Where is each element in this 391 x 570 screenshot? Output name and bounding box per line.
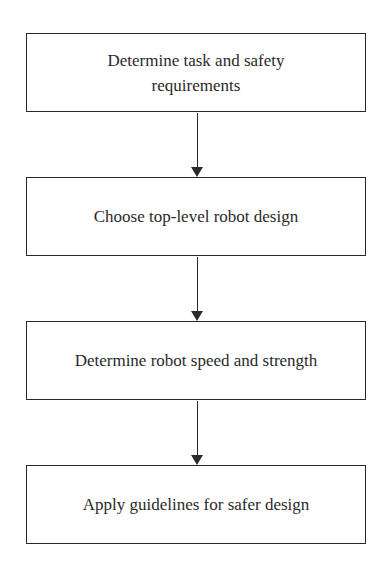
- step-speed-strength: Determine robot speed and strength: [26, 321, 366, 400]
- step-label: Determine task and safety requirements: [107, 48, 284, 98]
- step-label: Determine robot speed and strength: [75, 348, 318, 373]
- step-determine-requirements: Determine task and safety requirements: [26, 33, 366, 112]
- step-label: Apply guidelines for safer design: [83, 492, 310, 517]
- step-label-line-2: requirements: [152, 76, 241, 95]
- arrow-down-icon: [191, 113, 203, 177]
- step-choose-design: Choose top-level robot design: [26, 177, 366, 256]
- step-apply-guidelines: Apply guidelines for safer design: [26, 465, 366, 544]
- step-label-line-1: Determine task and safety: [107, 51, 284, 70]
- step-label: Choose top-level robot design: [94, 204, 298, 229]
- arrow-down-icon: [191, 257, 203, 321]
- arrow-down-icon: [191, 401, 203, 465]
